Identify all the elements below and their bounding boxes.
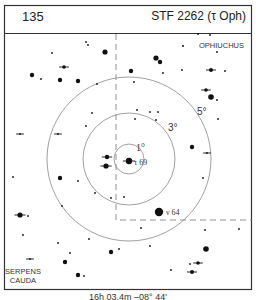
double-star-icon — [206, 68, 216, 72]
star-icon — [83, 275, 85, 277]
star-icon — [87, 44, 89, 46]
coordinates: 16h 03.4m –08° 44' — [0, 292, 256, 300]
star-icon — [22, 234, 24, 236]
finder-chart: 1° 3° 5° τ 69 ν 64 OPHIUCHUS SERPENS CAU… — [0, 0, 256, 300]
star-icon — [85, 41, 87, 43]
target-star-label: τ 69 — [134, 158, 147, 167]
chart-number: 135 — [22, 9, 44, 24]
double-star-icon — [26, 258, 34, 260]
ring-label-1: 1° — [136, 142, 145, 153]
star-icon — [85, 125, 87, 127]
star-icon — [209, 34, 211, 36]
double-star-icon — [16, 133, 24, 135]
star-icon — [69, 252, 71, 254]
star-icon — [58, 176, 62, 180]
star-icon — [40, 78, 42, 80]
star-icon — [12, 176, 14, 178]
star-icon — [118, 248, 120, 250]
star-icon — [149, 111, 151, 113]
double-star-icon — [203, 152, 211, 154]
object-name: STF 2262 (τ Oph) — [151, 9, 246, 23]
star-icon — [202, 177, 204, 179]
constellation-label-ophiuchus: OPHIUCHUS — [199, 41, 244, 50]
star-icon — [155, 119, 157, 121]
constellation-boundary — [116, 34, 252, 220]
star-icon — [57, 242, 59, 244]
constellation-label-serpens: SERPENS — [5, 267, 41, 276]
star-icon — [94, 192, 96, 194]
star-icon — [157, 111, 159, 113]
star-icon — [189, 263, 191, 265]
star-icon — [208, 94, 214, 100]
star-icon — [109, 250, 113, 254]
star-icon — [58, 78, 62, 82]
star-icon — [76, 273, 80, 277]
star-icon — [181, 69, 183, 71]
nearby-star-label: ν 64 — [166, 208, 180, 217]
star-icon — [162, 72, 164, 74]
double-star-icon — [54, 133, 62, 135]
star-icon — [204, 229, 206, 231]
ring-label-5: 5° — [197, 106, 207, 117]
star-icon — [123, 196, 125, 198]
star-icon — [153, 55, 158, 60]
star-icon — [61, 205, 63, 207]
star-icon — [224, 70, 226, 72]
star-icon — [102, 49, 107, 54]
double-star-icon — [59, 65, 69, 69]
star-icon — [155, 208, 163, 216]
star-icon — [76, 79, 80, 83]
star-icon — [91, 112, 93, 114]
star-icon — [140, 227, 142, 229]
star-icon — [30, 73, 34, 77]
star-icon — [238, 228, 240, 230]
star-icon — [27, 215, 29, 217]
double-star-icon — [102, 155, 112, 159]
double-star-icon — [187, 270, 197, 274]
ring-label-3: 3° — [168, 122, 178, 133]
star-icon — [133, 81, 135, 83]
star-icon — [217, 118, 219, 120]
star-icon — [88, 238, 90, 240]
star-icon — [77, 180, 79, 182]
star-icon — [110, 197, 112, 199]
star-icon — [63, 260, 67, 264]
star-icon — [134, 118, 136, 120]
star-icon — [203, 246, 209, 252]
star-icon — [136, 109, 138, 111]
double-star-icon — [100, 163, 111, 168]
double-star-icon — [14, 212, 25, 217]
double-star-icon — [193, 261, 203, 265]
star-icon — [216, 51, 218, 53]
star-icon — [129, 69, 133, 73]
star-icon — [158, 60, 162, 64]
star-icon — [170, 269, 172, 271]
double-star-icon — [201, 88, 211, 92]
star-icon — [96, 83, 98, 85]
star-icon — [149, 245, 151, 247]
star-icon — [216, 99, 218, 101]
constellation-label-cauda: CAUDA — [10, 276, 36, 285]
star-icon — [190, 145, 194, 149]
star-icon — [197, 33, 199, 35]
star-icon — [51, 52, 53, 54]
star-icon — [182, 45, 184, 47]
